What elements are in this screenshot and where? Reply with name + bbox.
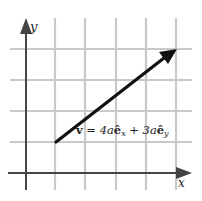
vector-equation-label: v = 4aêx + 3aêy: [76, 123, 169, 138]
grid-lines: [10, 18, 192, 190]
vector-diagram: y x v = 4aêx + 3aêy: [0, 0, 202, 201]
vector-symbol: v: [76, 123, 83, 137]
x-axis-label: x: [178, 176, 185, 190]
y-axis-label: y: [30, 19, 37, 34]
axes: [8, 18, 192, 190]
